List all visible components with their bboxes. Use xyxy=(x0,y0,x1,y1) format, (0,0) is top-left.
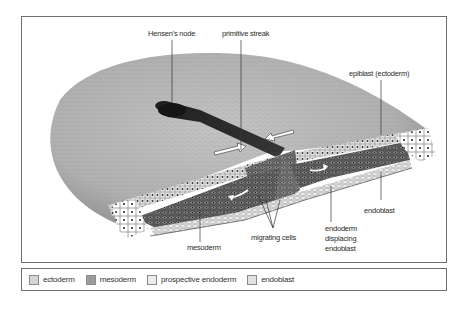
legend-item-prospective-endoderm: prospective endoderm xyxy=(147,275,236,285)
label-endoblast: endoblast xyxy=(364,206,396,215)
swatch-endoblast xyxy=(247,275,257,285)
label-primitive-streak: primitive streak xyxy=(222,29,270,38)
swatch-prospective-endoderm xyxy=(147,275,157,285)
legend-label: mesoderm xyxy=(100,275,136,284)
swatch-mesoderm xyxy=(86,275,96,285)
hensens-node-pit xyxy=(158,103,186,117)
legend: ectoderm mesoderm prospective endoderm e… xyxy=(21,268,447,291)
label-endoderm-line3: endoblast xyxy=(325,244,357,253)
legend-label: endoblast xyxy=(261,275,294,284)
label-mesoderm: mesoderm xyxy=(187,243,221,252)
label-hensens-node: Hensen's node xyxy=(148,29,195,38)
legend-label: ectoderm xyxy=(43,275,75,284)
label-epiblast: epiblast (ectoderm) xyxy=(349,69,410,78)
legend-item-endoblast: endoblast xyxy=(247,275,294,285)
legend-item-mesoderm: mesoderm xyxy=(86,275,136,285)
swatch-ectoderm xyxy=(29,275,39,285)
label-migrating-cells: migrating cells xyxy=(251,233,296,242)
label-endoderm-line2: displacing xyxy=(325,234,356,243)
legend-label: prospective endoderm xyxy=(161,275,236,284)
embryo-diagram: Hensen's node primitive streak epiblast … xyxy=(0,0,467,310)
legend-item-ectoderm: ectoderm xyxy=(29,275,75,285)
label-endoderm-line1: endoderm xyxy=(325,224,357,233)
